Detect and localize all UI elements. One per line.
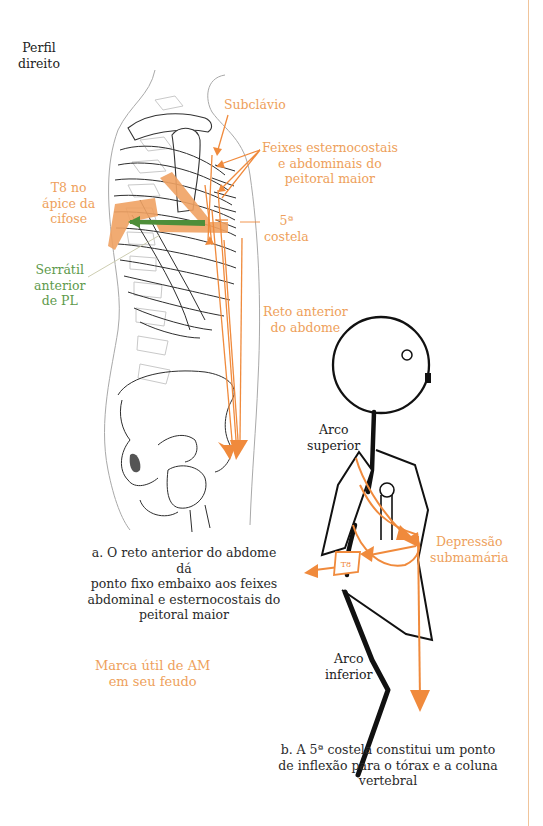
label-line: inferior bbox=[325, 667, 373, 683]
label-line: submamária bbox=[430, 550, 509, 566]
label-line: Arco bbox=[325, 651, 373, 667]
label-line: Depressão bbox=[430, 534, 509, 550]
label-line: Arco bbox=[307, 422, 360, 438]
caption-line: de inflexão para o tórax e a coluna bbox=[268, 758, 508, 774]
label-depressao-submamaria: Depressão submamária bbox=[430, 534, 509, 565]
caption-b: b. A 5ª costela constitui um ponto de in… bbox=[268, 742, 508, 789]
head-circle bbox=[333, 317, 429, 413]
label-arco-inferior: Arco inferior bbox=[325, 651, 373, 682]
label-line: superior bbox=[307, 438, 360, 454]
label-arco-superior: Arco superior bbox=[307, 422, 360, 453]
caption-line: b. A 5ª costela constitui um ponto bbox=[268, 742, 508, 758]
stick-figure-diagram: T8 bbox=[0, 0, 543, 826]
t8-badge-text: T8 bbox=[341, 560, 351, 569]
caption-line: vertebral bbox=[268, 773, 508, 789]
